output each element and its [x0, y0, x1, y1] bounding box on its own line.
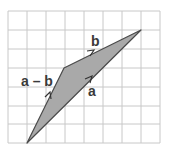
label-a-minus-b: a – b: [21, 73, 53, 89]
vector-diagram: b a a – b: [0, 0, 171, 148]
label-b: b: [91, 33, 100, 49]
label-a: a: [88, 83, 96, 99]
